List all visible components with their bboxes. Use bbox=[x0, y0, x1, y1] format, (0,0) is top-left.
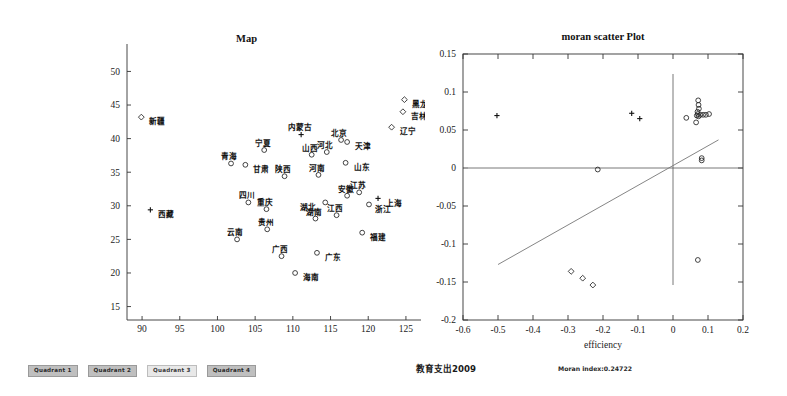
map-point-云南 bbox=[235, 237, 240, 242]
map-point-陕西 bbox=[282, 174, 287, 179]
map-point-山东 bbox=[343, 160, 348, 165]
map-point-贵州 bbox=[265, 227, 270, 232]
map-point-广东 bbox=[315, 250, 320, 255]
map-point-label: 山东 bbox=[354, 162, 370, 172]
map-point-label: 湖南 bbox=[306, 207, 322, 217]
map-y-tick-label: 20 bbox=[111, 268, 121, 278]
moran-point-19 bbox=[695, 258, 700, 263]
moran-x-tick-label: -0.3 bbox=[560, 325, 575, 335]
map-point-label: 辽宁 bbox=[400, 126, 416, 136]
map-point-label: 贵州 bbox=[258, 217, 274, 227]
moran-y-tick-label: 0.1 bbox=[444, 87, 456, 97]
map-scatter-chart: Map1520253035404550909510010511011512012… bbox=[95, 28, 425, 348]
map-point-辽宁 bbox=[389, 124, 395, 130]
moran-point-1 bbox=[629, 111, 634, 116]
map-point-label: 广西 bbox=[272, 244, 288, 254]
map-point-吉林 bbox=[400, 109, 406, 115]
map-point-西藏 bbox=[148, 207, 153, 212]
map-point-label: 甘肃 bbox=[253, 164, 269, 174]
moran-x-tick-label: 0.1 bbox=[702, 325, 714, 335]
map-point-label: 天津 bbox=[355, 141, 371, 151]
map-x-tick-label: 100 bbox=[210, 324, 225, 334]
map-point-湖南 bbox=[313, 216, 318, 221]
moran-x-tick-label: -0.5 bbox=[490, 325, 505, 335]
moran-y-tick-label: 0.15 bbox=[439, 49, 456, 59]
legend-item-quadrant-3[interactable]: Quadrant 3 bbox=[147, 365, 197, 377]
map-point-label: 陕西 bbox=[275, 164, 291, 174]
map-y-tick-label: 45 bbox=[111, 100, 121, 110]
moran-point-0 bbox=[494, 113, 499, 118]
map-y-tick-label: 40 bbox=[111, 134, 121, 144]
map-point-label: 青海 bbox=[221, 151, 237, 161]
map-point-广西 bbox=[279, 254, 284, 259]
moran-point-20 bbox=[568, 268, 574, 274]
map-point-label: 云南 bbox=[227, 227, 243, 237]
map-point-label: 浙江 bbox=[375, 204, 391, 214]
moran-point-15 bbox=[707, 112, 712, 117]
map-point-label: 黑龙江 bbox=[412, 99, 425, 109]
map-point-label: 吉林 bbox=[411, 111, 425, 121]
moran-y-tick-label: 0 bbox=[451, 163, 456, 173]
moran-point-2 bbox=[637, 116, 642, 121]
map-point-河北 bbox=[324, 150, 329, 155]
moran-x-tick-label: -0.2 bbox=[595, 325, 610, 335]
moran-point-5 bbox=[696, 98, 701, 103]
map-y-tick-label: 15 bbox=[111, 302, 121, 312]
moran-index-caption: Moran index:0.24722 bbox=[558, 365, 632, 372]
moran-y-tick-label: -0.1 bbox=[441, 239, 456, 249]
map-point-江苏 bbox=[357, 190, 362, 195]
moran-x-axis-label: efficiency bbox=[584, 340, 622, 350]
map-x-tick-label: 120 bbox=[361, 324, 376, 334]
map-point-label: 安徽 bbox=[338, 184, 354, 194]
map-point-河南 bbox=[316, 172, 321, 177]
figure-caption-chinese: 教育支出2009 bbox=[416, 362, 476, 374]
map-y-tick-label: 30 bbox=[111, 201, 121, 211]
map-x-tick-label: 105 bbox=[248, 324, 263, 334]
moran-point-4 bbox=[684, 115, 689, 120]
map-point-江西 bbox=[334, 213, 339, 218]
moran-x-tick-label: -0.1 bbox=[630, 325, 645, 335]
map-point-新疆 bbox=[138, 114, 144, 120]
moran-x-tick-label: 0.2 bbox=[737, 325, 749, 335]
map-point-label: 广东 bbox=[325, 252, 341, 262]
map-point-label: 江西 bbox=[327, 203, 343, 213]
map-point-海南 bbox=[293, 271, 298, 276]
moran-x-tick-label: -0.4 bbox=[525, 325, 540, 335]
map-x-tick-label: 115 bbox=[324, 324, 338, 334]
moran-y-tick-label: -0.2 bbox=[441, 315, 456, 325]
quadrant-legend: Quadrant 1 Quadrant 2 Quadrant 3 Quadran… bbox=[28, 365, 256, 377]
moran-scatter-chart: moran scatter Plot0.150.10.050-0.05-0.1-… bbox=[425, 28, 765, 353]
map-point-北京 bbox=[339, 138, 344, 143]
map-point-四川 bbox=[246, 200, 251, 205]
moran-y-tick-label: -0.05 bbox=[436, 201, 456, 211]
map-y-tick-label: 25 bbox=[111, 235, 121, 245]
map-x-tick-label: 110 bbox=[286, 324, 300, 334]
map-point-label: 山西 bbox=[302, 143, 318, 153]
map-point-内蒙古 bbox=[299, 132, 304, 137]
map-y-tick-label: 50 bbox=[111, 67, 121, 77]
legend-item-quadrant-1[interactable]: Quadrant 1 bbox=[28, 365, 78, 377]
moran-plot-frame bbox=[463, 54, 743, 320]
map-y-tick-label: 35 bbox=[111, 168, 121, 178]
map-point-宁夏 bbox=[262, 148, 267, 153]
map-x-tick-label: 125 bbox=[399, 324, 414, 334]
map-point-福建 bbox=[360, 230, 365, 235]
moran-y-tick-label: 0.05 bbox=[439, 125, 456, 135]
map-point-label: 河南 bbox=[309, 163, 325, 173]
map-point-天津 bbox=[345, 140, 350, 145]
map-title: Map bbox=[236, 33, 257, 44]
map-point-label: 福建 bbox=[369, 232, 386, 242]
map-x-tick-label: 95 bbox=[175, 324, 185, 334]
map-x-tick-label: 90 bbox=[137, 324, 147, 334]
moran-title: moran scatter Plot bbox=[561, 31, 645, 42]
map-point-label: 四川 bbox=[239, 191, 255, 200]
legend-item-quadrant-4[interactable]: Quadrant 4 bbox=[207, 365, 257, 377]
map-point-黑龙江 bbox=[402, 97, 408, 103]
moran-point-22 bbox=[590, 282, 596, 288]
moran-x-tick-label: 0 bbox=[671, 325, 676, 335]
map-point-label: 北京 bbox=[331, 128, 347, 138]
legend-item-quadrant-2[interactable]: Quadrant 2 bbox=[88, 365, 138, 377]
map-point-安徽 bbox=[345, 193, 350, 198]
moran-regression-line bbox=[498, 140, 719, 265]
map-point-label: 西藏 bbox=[158, 209, 174, 219]
